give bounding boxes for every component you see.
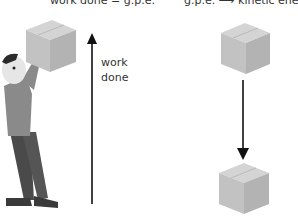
box-top — [221, 23, 270, 74]
work-done-label: work done — [101, 55, 128, 85]
box-bottom — [219, 163, 269, 214]
box-lifted — [26, 20, 76, 72]
diagram-canvas — [0, 0, 298, 224]
work-label-line1: work — [101, 55, 128, 70]
work-done-arrow-icon — [87, 33, 97, 204]
falling-arrow-icon — [237, 80, 249, 160]
work-label-line2: done — [101, 70, 128, 85]
